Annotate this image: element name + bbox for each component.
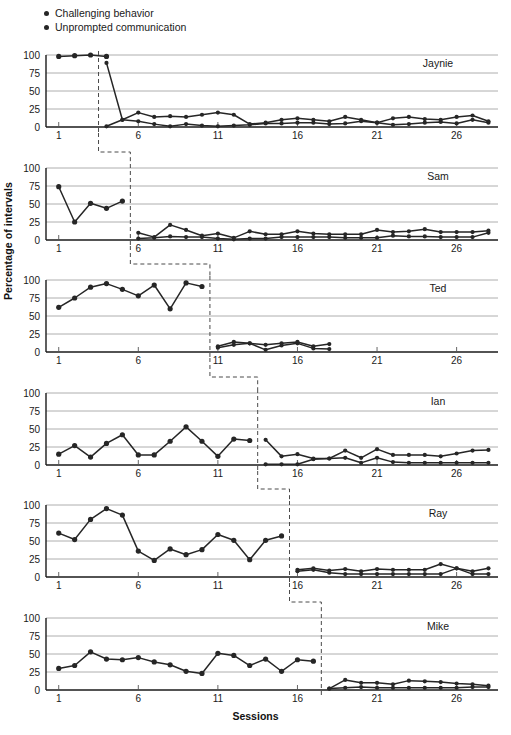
data-point [152, 659, 157, 664]
data-point [199, 284, 204, 289]
y-tick-label: 75 [29, 181, 41, 192]
data-point [248, 229, 252, 233]
data-point [455, 686, 459, 690]
data-point [455, 566, 459, 570]
data-point [136, 548, 141, 553]
phase-step-connector [258, 471, 290, 501]
data-point [375, 228, 379, 232]
data-point [455, 230, 459, 234]
data-point [279, 462, 283, 466]
data-point [72, 537, 77, 542]
y-tick-label: 100 [23, 50, 40, 61]
y-tick-label: 75 [29, 631, 41, 642]
data-point [391, 234, 395, 238]
x-tick-label: 26 [451, 580, 463, 591]
data-point [264, 343, 268, 347]
data-point [215, 532, 220, 537]
y-axis-label: Percentage of intervals [2, 284, 14, 300]
y-tick-label: 50 [29, 199, 41, 210]
data-point [136, 111, 140, 115]
data-point [248, 236, 252, 240]
data-point [407, 122, 411, 126]
data-point [470, 449, 474, 453]
data-point [407, 453, 411, 457]
x-axis-label: Sessions [0, 710, 511, 722]
data-point [88, 285, 93, 290]
data-point [264, 438, 268, 442]
x-tick-label: 6 [136, 468, 142, 479]
panel-sam: 02550751001611162126Sam [23, 163, 498, 254]
data-point [470, 118, 474, 122]
data-point [455, 451, 459, 455]
data-point [391, 123, 395, 127]
data-point [184, 235, 188, 239]
data-point [295, 340, 299, 344]
data-point [375, 567, 379, 571]
data-point [152, 115, 156, 119]
y-tick-label: 0 [34, 347, 40, 358]
data-point [120, 287, 125, 292]
data-point [423, 568, 427, 572]
y-tick-label: 25 [29, 217, 41, 228]
data-point [327, 232, 331, 236]
data-point [232, 113, 236, 117]
x-tick-label: 21 [371, 243, 383, 254]
data-point [184, 115, 188, 119]
data-point [183, 280, 188, 285]
x-tick-label: 16 [292, 243, 304, 254]
data-point [216, 231, 220, 235]
y-tick-label: 0 [34, 685, 40, 696]
data-point [168, 546, 173, 551]
data-point [407, 572, 411, 576]
data-point [439, 572, 443, 576]
data-point [295, 229, 299, 233]
data-point [136, 293, 141, 298]
data-point [168, 234, 172, 238]
data-point [232, 123, 236, 127]
data-point [375, 686, 379, 690]
data-point [407, 568, 411, 572]
y-tick-label: 75 [29, 293, 41, 304]
panel-ian: 02550751001611162126Ian [23, 388, 498, 479]
x-tick-label: 6 [136, 693, 142, 704]
data-point [439, 235, 443, 239]
data-point [391, 568, 395, 572]
data-point [455, 235, 459, 239]
x-tick-label: 26 [451, 468, 463, 479]
x-tick-label: 21 [371, 468, 383, 479]
panel-title: Jaynie [423, 57, 454, 69]
dot-icon [44, 11, 49, 16]
data-point [120, 657, 125, 662]
y-tick-label: 25 [29, 104, 41, 115]
x-tick-label: 6 [136, 243, 142, 254]
data-point [359, 681, 363, 685]
legend-label-unprompted-communication: Unprompted communication [55, 20, 186, 34]
panel-jaynie: 02550751001611162126Jaynie [23, 50, 498, 141]
data-point [88, 201, 93, 206]
data-point [104, 441, 109, 446]
data-point [470, 113, 474, 117]
data-point [120, 512, 125, 517]
y-tick-label: 50 [29, 649, 41, 660]
x-tick-label: 26 [451, 130, 463, 141]
y-tick-label: 0 [34, 572, 40, 583]
data-point [391, 230, 395, 234]
data-point [200, 113, 204, 117]
data-point [136, 452, 141, 457]
data-point [216, 111, 220, 115]
data-point [470, 461, 474, 465]
x-tick-label: 16 [292, 355, 304, 366]
legend-item-challenging-behavior: Challenging behavior [44, 6, 186, 20]
data-point [311, 456, 315, 460]
x-tick-label: 11 [213, 468, 224, 479]
data-point [439, 680, 443, 684]
x-tick-label: 11 [213, 355, 224, 366]
x-tick-label: 6 [136, 580, 142, 591]
data-point [486, 461, 490, 465]
y-tick-label: 100 [23, 163, 40, 174]
data-point [470, 682, 474, 686]
data-point [88, 517, 93, 522]
data-point [200, 123, 204, 127]
data-point [295, 235, 299, 239]
data-point [343, 236, 347, 240]
